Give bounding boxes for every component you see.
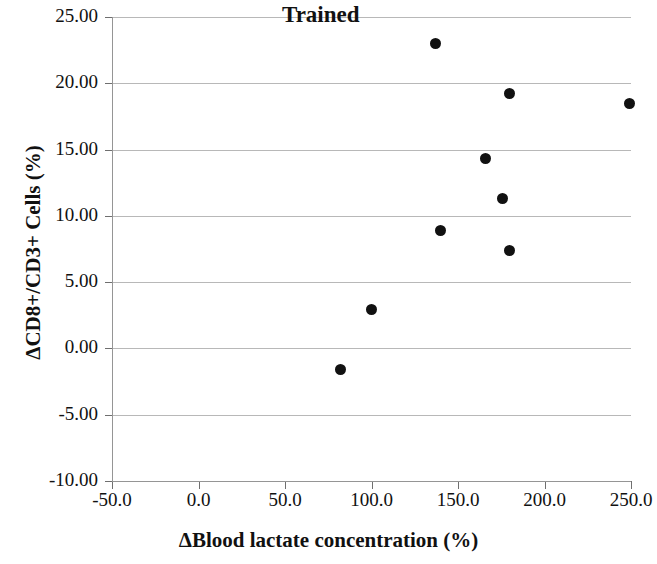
- x-axis-tick-label: 150.0: [437, 489, 480, 511]
- data-point: [435, 225, 446, 236]
- x-axis-tick-label: 100.0: [350, 489, 393, 511]
- x-axis-tick: [458, 481, 459, 489]
- data-point: [366, 304, 377, 315]
- gridline: [112, 282, 631, 283]
- gridline: [112, 17, 631, 18]
- data-point: [624, 98, 635, 109]
- x-axis-tick: [372, 481, 373, 489]
- gridline: [112, 348, 631, 349]
- x-axis-tick: [199, 481, 200, 489]
- x-axis-tick: [631, 481, 632, 489]
- scatter-plot-figure: -10.00-5.000.005.0010.0015.0020.0025.00 …: [0, 0, 657, 564]
- x-axis-title: ΔBlood lactate concentration (%): [0, 528, 657, 553]
- data-point: [504, 245, 515, 256]
- x-axis-line: [112, 481, 631, 482]
- x-axis-tick: [285, 481, 286, 489]
- gridline: [112, 415, 631, 416]
- y-axis-title-holder: ΔCD8+/CD3+ Cells (%): [0, 0, 34, 520]
- x-axis-tick-label: 250.0: [610, 489, 653, 511]
- data-point: [480, 153, 491, 164]
- x-axis-tick-label: 50.0: [268, 489, 301, 511]
- data-point: [497, 193, 508, 204]
- chart-title: Trained: [282, 2, 360, 28]
- gridline: [112, 83, 631, 84]
- x-axis-tick-label: -50.0: [92, 489, 132, 511]
- data-point: [504, 88, 515, 99]
- y-axis-line: [112, 17, 113, 481]
- data-point: [430, 38, 441, 49]
- gridline: [112, 216, 631, 217]
- gridline: [112, 150, 631, 151]
- x-axis-tick: [545, 481, 546, 489]
- y-axis-title: ΔCD8+/CD3+ Cells (%): [21, 88, 46, 418]
- x-axis-tick: [112, 481, 113, 489]
- x-axis-tick-label: 200.0: [523, 489, 566, 511]
- x-axis-tick-label: 0.0: [187, 489, 211, 511]
- data-point: [335, 364, 346, 375]
